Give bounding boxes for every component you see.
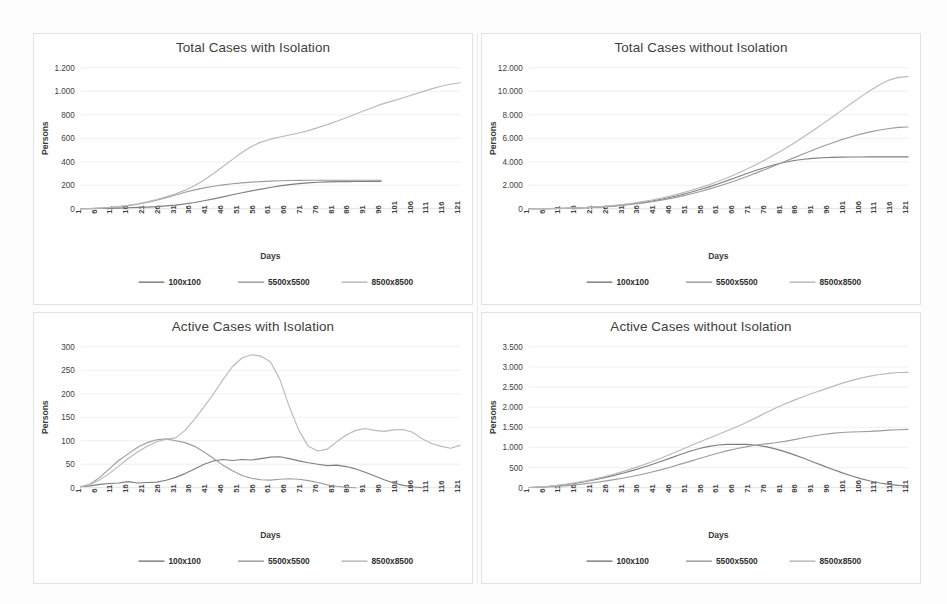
x-axis-tick-label: 56 bbox=[248, 484, 257, 492]
x-axis-tick-label: 81 bbox=[775, 484, 784, 492]
legend-label-8500x8500[interactable]: 8500x8500 bbox=[371, 277, 413, 287]
y-axis-tick-label: 3.500 bbox=[502, 343, 523, 352]
x-axis-tick-label: 66 bbox=[279, 484, 288, 492]
y-axis-tick-label: 400 bbox=[61, 158, 75, 167]
x-axis-tick-label: 91 bbox=[358, 484, 367, 492]
y-axis-tick-label: 2.500 bbox=[502, 383, 523, 392]
y-axis-tick-label: 1.500 bbox=[502, 423, 523, 432]
series-line-8500x8500 bbox=[81, 83, 460, 209]
x-axis-tick-label: 91 bbox=[358, 205, 367, 213]
x-axis-tick-label: 66 bbox=[727, 205, 736, 213]
y-axis-tick-label: 250 bbox=[61, 366, 75, 375]
x-axis-tick-label: 121 bbox=[901, 480, 910, 493]
x-axis-tick-label: 51 bbox=[680, 205, 689, 213]
x-axis-tick-label: 46 bbox=[664, 205, 673, 213]
y-axis-title: Persons bbox=[40, 121, 50, 155]
x-axis-tick-label: 31 bbox=[617, 205, 626, 213]
x-axis-tick-label: 86 bbox=[790, 484, 799, 492]
x-axis-tick-label: 31 bbox=[617, 484, 626, 492]
chart-svg-total-cases-without-isolation: Total Cases without Isolation02.0004.000… bbox=[482, 34, 920, 304]
x-axis-tick-label: 71 bbox=[743, 484, 752, 492]
x-axis-tick-label: 41 bbox=[200, 205, 209, 213]
series-line-100x100 bbox=[81, 457, 422, 488]
x-axis-tick-label: 36 bbox=[184, 484, 193, 492]
legend-label-5500x5500[interactable]: 5500x5500 bbox=[716, 556, 758, 566]
x-axis-tick-label: 31 bbox=[169, 484, 178, 492]
x-axis-tick-label: 61 bbox=[711, 205, 720, 213]
x-axis-tick-label: 91 bbox=[806, 484, 815, 492]
x-axis-tick-label: 116 bbox=[885, 201, 894, 213]
x-axis-tick-label: 81 bbox=[327, 205, 336, 213]
x-axis-tick-label: 101 bbox=[838, 480, 847, 493]
legend-label-100x100[interactable]: 100x100 bbox=[168, 277, 201, 287]
chart-panel-total-cases-with-isolation[interactable]: Total Cases with Isolation02004006008001… bbox=[33, 33, 473, 305]
x-axis-tick-label: 101 bbox=[838, 201, 847, 214]
x-axis-tick-label: 106 bbox=[854, 480, 863, 493]
y-axis-tick-label: 200 bbox=[61, 390, 75, 399]
x-axis-tick-label: 6 bbox=[538, 209, 547, 213]
legend-label-100x100[interactable]: 100x100 bbox=[616, 277, 649, 287]
x-axis-tick-label: 96 bbox=[374, 484, 383, 492]
chart-panel-total-cases-without-isolation[interactable]: Total Cases without Isolation02.0004.000… bbox=[481, 33, 921, 305]
legend-label-5500x5500[interactable]: 5500x5500 bbox=[268, 277, 310, 287]
x-axis-tick-label: 46 bbox=[216, 484, 225, 492]
x-axis-tick-label: 6 bbox=[90, 488, 99, 492]
chart-panel-active-cases-without-isolation[interactable]: Active Cases without Isolation05001.0001… bbox=[481, 312, 921, 584]
series-line-8500x8500 bbox=[529, 77, 908, 209]
y-axis-tick-label: 600 bbox=[61, 134, 75, 143]
x-axis-tick-label: 21 bbox=[137, 205, 146, 213]
x-axis-tick-label: 121 bbox=[901, 201, 910, 214]
legend-label-8500x8500[interactable]: 8500x8500 bbox=[819, 277, 861, 287]
x-axis-tick-label: 61 bbox=[263, 484, 272, 492]
x-axis-tick-label: 111 bbox=[869, 202, 878, 214]
chart-title: Active Cases without Isolation bbox=[610, 319, 791, 334]
legend-label-5500x5500[interactable]: 5500x5500 bbox=[716, 277, 758, 287]
x-axis-tick-label: 16 bbox=[569, 205, 578, 213]
x-axis-title: Days bbox=[260, 530, 281, 540]
x-axis-tick-label: 91 bbox=[806, 205, 815, 213]
x-axis-tick-label: 96 bbox=[374, 205, 383, 213]
x-axis-tick-label: 76 bbox=[759, 484, 768, 492]
chart-title: Total Cases without Isolation bbox=[614, 40, 787, 55]
series-line-5500x5500 bbox=[529, 127, 908, 209]
x-axis-tick-label: 26 bbox=[153, 484, 162, 492]
x-axis-tick-label: 16 bbox=[121, 484, 130, 492]
x-axis-tick-label: 1 bbox=[522, 209, 531, 213]
x-axis-tick-label: 86 bbox=[342, 205, 351, 213]
y-axis-title: Persons bbox=[40, 400, 50, 434]
series-line-5500x5500 bbox=[529, 429, 908, 487]
y-axis-tick-label: 1.000 bbox=[54, 87, 75, 96]
x-axis-tick-label: 61 bbox=[263, 205, 272, 213]
x-axis-tick-label: 51 bbox=[232, 484, 241, 492]
x-axis-tick-label: 106 bbox=[406, 201, 415, 214]
y-axis-tick-label: 100 bbox=[61, 437, 75, 446]
x-axis-title: Days bbox=[260, 251, 281, 261]
y-axis-tick-label: 1.000 bbox=[502, 443, 523, 452]
legend-label-8500x8500[interactable]: 8500x8500 bbox=[371, 556, 413, 566]
y-axis-title: Persons bbox=[488, 400, 498, 434]
x-axis-tick-label: 96 bbox=[822, 205, 831, 213]
x-axis-tick-label: 86 bbox=[790, 205, 799, 213]
x-axis-tick-label: 36 bbox=[184, 205, 193, 213]
x-axis-tick-label: 116 bbox=[885, 480, 894, 492]
y-axis-title: Persons bbox=[488, 121, 498, 155]
legend-label-100x100[interactable]: 100x100 bbox=[616, 556, 649, 566]
x-axis-tick-label: 26 bbox=[601, 484, 610, 492]
x-axis-title: Days bbox=[708, 251, 729, 261]
panel-divider-vertical bbox=[477, 33, 478, 584]
chart-panel-active-cases-with-isolation[interactable]: Active Cases with Isolation0501001502002… bbox=[33, 312, 473, 584]
x-axis-tick-label: 11 bbox=[553, 206, 562, 214]
y-axis-tick-label: 200 bbox=[61, 181, 75, 190]
x-axis-tick-label: 101 bbox=[390, 201, 399, 214]
legend-label-5500x5500[interactable]: 5500x5500 bbox=[268, 556, 310, 566]
x-axis-tick-label: 71 bbox=[295, 484, 304, 492]
x-axis-tick-label: 51 bbox=[680, 484, 689, 492]
x-axis-tick-label: 121 bbox=[453, 480, 462, 493]
y-axis-tick-label: 300 bbox=[61, 343, 75, 352]
legend-label-8500x8500[interactable]: 8500x8500 bbox=[819, 556, 861, 566]
y-axis-tick-label: 8.000 bbox=[502, 111, 523, 120]
x-axis-tick-label: 81 bbox=[775, 205, 784, 213]
legend-label-100x100[interactable]: 100x100 bbox=[168, 556, 201, 566]
x-axis-tick-label: 11 bbox=[105, 485, 114, 493]
y-axis-tick-label: 150 bbox=[61, 413, 75, 422]
